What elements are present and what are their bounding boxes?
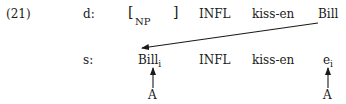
s-trace-index: i <box>330 59 333 69</box>
np-close-bracket: ] <box>173 5 178 19</box>
np-open-bracket: [ <box>128 5 133 19</box>
s-subject: Billi <box>138 53 161 68</box>
d-object: Bill <box>318 7 338 21</box>
s-verb: kiss-en <box>252 53 294 67</box>
linguistic-derivation-diagram: (21) d: [ NP ] INFL kiss-en Bill s: Bill… <box>0 0 346 19</box>
d-structure-label: d: <box>83 7 95 21</box>
s-subject-word: Bill <box>138 53 158 67</box>
movement-arrow <box>142 23 318 48</box>
s-infl: INFL <box>199 53 231 67</box>
d-verb: kiss-en <box>252 7 294 21</box>
trace-a-marker: A <box>323 88 332 102</box>
np-label: NP <box>135 16 150 27</box>
example-number: (21) <box>6 7 31 21</box>
s-structure-label: s: <box>83 53 93 67</box>
subject-a-marker: A <box>148 88 157 102</box>
s-subject-index: i <box>158 59 161 69</box>
d-infl: INFL <box>199 7 231 21</box>
s-trace: ei <box>323 53 333 68</box>
